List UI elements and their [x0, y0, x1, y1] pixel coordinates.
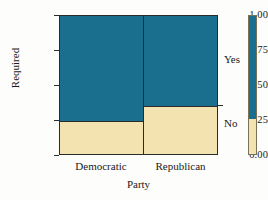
- bar-segment-republican-no[interactable]: [144, 106, 218, 154]
- bar-segment-democratic-no[interactable]: [60, 121, 144, 154]
- y-tick-mark-0: [54, 155, 59, 156]
- bar-column-democratic[interactable]: [60, 16, 144, 154]
- x-axis-title: Party: [59, 178, 218, 190]
- bar-split-line-republican: [144, 106, 218, 107]
- x-tick-label-republican: Republican: [143, 160, 218, 172]
- bar-segment-democratic-yes[interactable]: [60, 16, 144, 121]
- right-axis-tick-mark: [218, 105, 223, 106]
- column-divider-line: [143, 16, 144, 154]
- bar-column-republican[interactable]: [144, 16, 218, 154]
- y-axis-title: Required: [9, 31, 21, 105]
- legend-color-bar: [248, 15, 257, 155]
- bar-segment-republican-yes[interactable]: [144, 16, 218, 106]
- legend-swatch-no: [249, 119, 256, 154]
- mosaic-chart: Required 0.00 0.25 0.50 0.75 1.00 Yes No…: [0, 0, 268, 200]
- plot-area: [59, 15, 218, 155]
- legend-label-no: No: [224, 117, 237, 129]
- bar-split-line-democratic: [60, 121, 144, 122]
- legend-swatch-yes: [249, 16, 256, 119]
- legend-label-yes: Yes: [224, 53, 240, 65]
- x-tick-label-democratic: Democratic: [59, 160, 143, 172]
